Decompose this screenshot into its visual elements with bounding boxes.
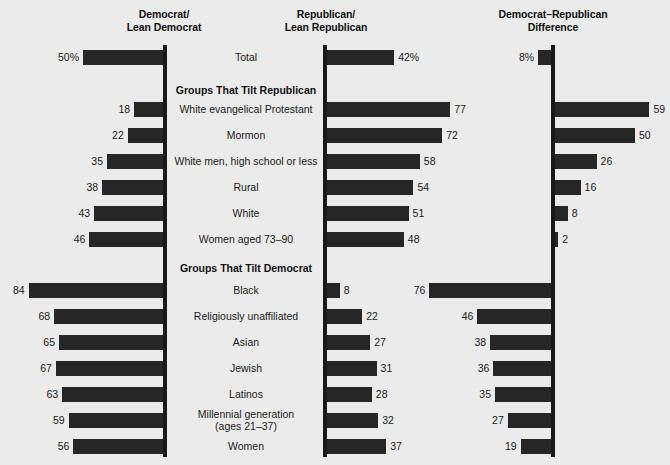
bar-republican-4 (327, 180, 413, 195)
bar-republican-7 (327, 283, 340, 298)
value-democrat-2: 22 (68, 128, 124, 143)
bar-republican-3 (327, 154, 420, 169)
bar-difference-10 (493, 361, 551, 376)
bar-republican-5 (327, 206, 409, 221)
bar-democrat-3 (107, 154, 163, 169)
bar-difference-3 (555, 154, 597, 169)
bar-republican-10 (327, 361, 377, 376)
value-democrat-6: 46 (29, 232, 85, 247)
column-header-difference-line1: Democrat–Republican (478, 8, 628, 21)
row-label-women: Women (170, 440, 322, 452)
bar-republican-12 (327, 413, 378, 428)
value-difference-5: 8 (572, 206, 578, 221)
bar-democrat-7 (29, 283, 163, 298)
bar-difference-4 (555, 180, 581, 195)
bar-difference-8 (477, 309, 551, 324)
value-difference-1: 59 (653, 102, 665, 117)
party-identification-chart: Democrat/ Lean Democrat Republican/ Lean… (0, 0, 670, 465)
row-label-line: (ages 21–37) (170, 420, 322, 432)
value-republican-5: 51 (413, 206, 425, 221)
value-difference-8: 46 (417, 309, 473, 324)
column-header-republican: Republican/ Lean Republican (266, 8, 386, 34)
value-democrat-9: 65 (0, 335, 55, 350)
value-democrat-8: 68 (0, 309, 50, 324)
value-difference-11: 35 (435, 387, 491, 402)
bar-democrat-0 (83, 50, 163, 65)
row-label-line: White evangelical Protestant (170, 103, 322, 115)
bar-democrat-1 (134, 102, 163, 117)
row-label-white-evangelical-protestant: White evangelical Protestant (170, 103, 322, 115)
row-label-white-men-high-school-or-less: White men, high school or less (170, 155, 322, 167)
column-header-democrat: Democrat/ Lean Democrat (104, 8, 224, 34)
row-label-women-aged-73-90: Women aged 73–90 (170, 233, 322, 245)
bar-democrat-4 (102, 180, 163, 195)
bar-republican-13 (327, 439, 386, 454)
value-democrat-11: 63 (2, 387, 58, 402)
section-header-tilt-democrat: Groups That Tilt Democrat (170, 262, 322, 274)
row-label-millennial-generation-ages-21-37: Millennial generation(ages 21–37) (170, 408, 322, 432)
row-label-white: White (170, 207, 322, 219)
row-label-black: Black (170, 284, 322, 296)
row-label-line: White (170, 207, 322, 219)
value-democrat-12: 59 (9, 413, 65, 428)
value-republican-3: 58 (424, 154, 436, 169)
axis-line-democrat (163, 45, 167, 457)
row-label-line: Black (170, 284, 322, 296)
bar-republican-11 (327, 387, 372, 402)
value-difference-13: 19 (461, 439, 517, 454)
row-label-total: Total (170, 51, 322, 63)
row-label-asian: Asian (170, 336, 322, 348)
value-democrat-4: 38 (42, 180, 98, 195)
row-label-line: White men, high school or less (170, 155, 322, 167)
value-difference-3: 26 (601, 154, 613, 169)
row-label-religiously-unaffiliated: Religiously unaffiliated (170, 310, 322, 322)
bar-difference-2 (555, 128, 635, 143)
row-label-line: Women aged 73–90 (170, 233, 322, 245)
value-democrat-10: 67 (0, 361, 52, 376)
value-republican-11: 28 (376, 387, 388, 402)
row-label-line: Mormon (170, 129, 322, 141)
row-label-jewish: Jewish (170, 362, 322, 374)
bar-difference-1 (555, 102, 649, 117)
value-democrat-0: 50% (23, 50, 79, 65)
row-label-line: Total (170, 51, 322, 63)
column-header-democrat-line2: Lean Democrat (104, 21, 224, 34)
bar-republican-0 (327, 50, 394, 65)
value-difference-12: 27 (448, 413, 504, 428)
bar-democrat-10 (56, 361, 163, 376)
column-header-difference: Democrat–Republican Difference (478, 8, 628, 34)
column-header-difference-line2: Difference (478, 21, 628, 34)
value-difference-10: 36 (433, 361, 489, 376)
value-republican-13: 37 (390, 439, 402, 454)
value-republican-9: 27 (374, 335, 386, 350)
bar-difference-0 (538, 50, 551, 65)
bar-difference-9 (490, 335, 551, 350)
bar-difference-11 (495, 387, 551, 402)
row-label-line: Latinos (170, 388, 322, 400)
bar-democrat-6 (89, 232, 163, 247)
column-header-republican-line1: Republican/ (266, 8, 386, 21)
bar-democrat-13 (73, 439, 163, 454)
row-label-line: Religiously unaffiliated (170, 310, 322, 322)
bar-democrat-11 (62, 387, 163, 402)
value-republican-10: 31 (381, 361, 393, 376)
row-label-rural: Rural (170, 181, 322, 193)
bar-republican-1 (327, 102, 450, 117)
value-democrat-3: 35 (47, 154, 103, 169)
value-democrat-7: 84 (0, 283, 25, 298)
bar-difference-6 (555, 232, 558, 247)
value-republican-4: 54 (417, 180, 429, 195)
value-republican-1: 77 (454, 102, 466, 117)
value-democrat-1: 18 (74, 102, 130, 117)
value-republican-7: 8 (344, 283, 350, 298)
section-header-tilt-republican: Groups That Tilt Republican (170, 84, 322, 96)
bar-democrat-2 (128, 128, 163, 143)
row-label-line: Millennial generation (170, 408, 322, 420)
bar-republican-8 (327, 309, 362, 324)
row-label-line: Asian (170, 336, 322, 348)
bar-difference-12 (508, 413, 551, 428)
value-difference-2: 50 (639, 128, 651, 143)
row-label-line: Rural (170, 181, 322, 193)
row-label-mormon: Mormon (170, 129, 322, 141)
bar-democrat-12 (69, 413, 163, 428)
